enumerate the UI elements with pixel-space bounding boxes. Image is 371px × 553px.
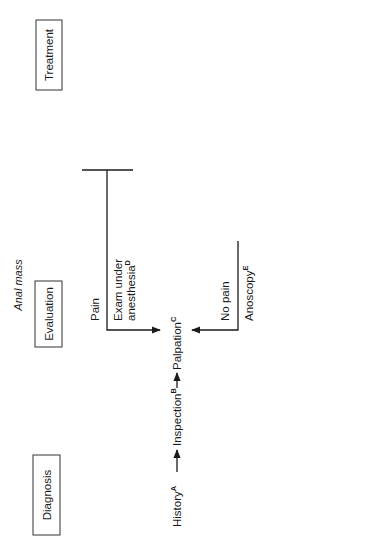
section-treatment: Treatment (36, 20, 62, 90)
section-label-treatment: Treatment (43, 28, 55, 81)
section-evaluation: Evaluation (35, 281, 62, 347)
section-diagnosis: Diagnosis (33, 455, 60, 535)
pain-evaluation-label-2: anesthesiaD (123, 259, 137, 321)
section-label-evaluation: Evaluation (43, 287, 55, 341)
no-pain-branch-line (192, 241, 238, 330)
pain-evaluation-label: Exam under (112, 259, 124, 321)
diagram-title: Anal mass (12, 259, 24, 312)
node-history-label: HistoryA (169, 485, 183, 527)
node-palpation-label: PalpationC (169, 316, 183, 370)
anal-mass-flowchart: Anal mass Diagnosis Evaluation Treatment… (0, 0, 371, 553)
node-inspection-label: InspectionB (169, 388, 183, 446)
section-label-diagnosis: Diagnosis (41, 470, 53, 521)
no-pain-condition-label: No pain (219, 281, 231, 321)
flowchart-canvas: Anal mass Diagnosis Evaluation Treatment… (0, 0, 371, 553)
no-pain-evaluation-label: AnoscopyE (241, 265, 255, 321)
node-history: HistoryA (169, 485, 183, 527)
node-palpation: PalpationC (169, 316, 183, 370)
node-inspection: InspectionB (169, 388, 183, 446)
pain-condition-label: Pain (89, 298, 101, 321)
